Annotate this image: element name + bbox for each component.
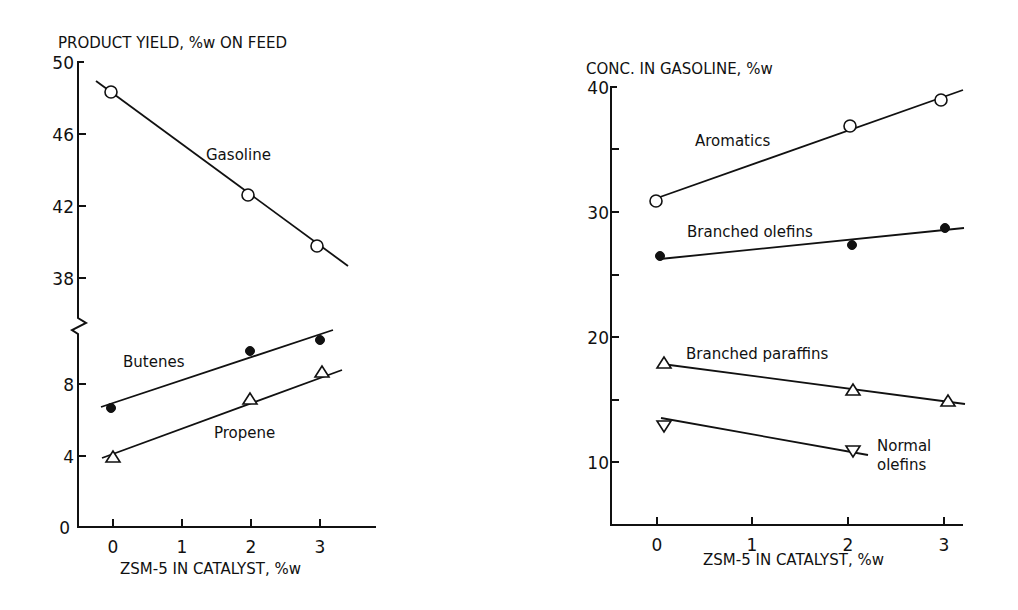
right-x-axis-title: ZSM-5 IN CATALYST, %w <box>703 551 884 569</box>
propene-point <box>243 393 257 404</box>
normal-olefins-label: Normal <box>877 437 931 455</box>
aromatics-label: Aromatics <box>695 132 770 150</box>
branched-olefins-label: Branched olefins <box>687 223 813 241</box>
right-xtick-label: 3 <box>939 535 950 555</box>
right-y-axis-title: CONC. IN GASOLINE, %w <box>586 60 773 78</box>
left-xtick-label: 3 <box>315 537 326 557</box>
normal-olefins-label: olefins <box>877 456 927 474</box>
left-ytick-label: 4 <box>63 447 74 467</box>
propene-fit-line <box>102 370 342 458</box>
butenes-label: Butenes <box>123 353 185 371</box>
propene-point <box>315 366 329 377</box>
gasoline-label: Gasoline <box>206 146 271 164</box>
butenes-point <box>107 404 116 413</box>
right-ytick-label: 30 <box>587 203 609 223</box>
left-ytick-label: 42 <box>52 197 74 217</box>
left-ytick-label: 8 <box>63 375 74 395</box>
gasoline-point <box>311 240 323 252</box>
left-xtick-label: 1 <box>177 537 188 557</box>
figure: PRODUCT YIELD, %w ON FEED 50 46 42 38 8 … <box>0 0 1018 610</box>
gasoline-point <box>105 86 117 98</box>
left-ytick-label: 50 <box>52 53 74 73</box>
gasoline-point <box>242 189 254 201</box>
right-xtick-label: 0 <box>652 535 663 555</box>
right-ytick-label: 10 <box>587 453 609 473</box>
butenes-point <box>316 336 325 345</box>
left-xtick-label: 2 <box>246 537 257 557</box>
aromatics-point <box>935 94 947 106</box>
gasoline-fit-line <box>96 81 348 266</box>
left-ytick-label: 0 <box>59 518 70 538</box>
left-x-axis-title: ZSM-5 IN CATALYST, %w <box>120 560 301 578</box>
branched-paraffins-label: Branched paraffins <box>686 345 829 363</box>
left-chart: PRODUCT YIELD, %w ON FEED 50 46 42 38 8 … <box>52 34 376 578</box>
branched-paraffins-point <box>657 357 671 368</box>
butenes-point <box>246 347 255 356</box>
normal-olefins-point <box>657 421 671 432</box>
branched-olefins-point <box>656 252 665 261</box>
left-ytick-label: 38 <box>52 269 74 289</box>
propene-label: Propene <box>214 424 275 442</box>
branched-olefins-point <box>941 224 950 233</box>
normal-olefins-fit-line <box>661 418 868 455</box>
branched-olefins-point <box>848 241 857 250</box>
right-chart: CONC. IN GASOLINE, %w 40 30 20 10 0 1 2 … <box>586 60 965 569</box>
left-ytick-label: 46 <box>52 125 74 145</box>
left-xtick-label: 0 <box>108 537 119 557</box>
branched-paraffins-fit-line <box>662 364 965 404</box>
right-ytick-label: 40 <box>587 78 609 98</box>
aromatics-point <box>844 120 856 132</box>
left-y-axis-title: PRODUCT YIELD, %w ON FEED <box>58 34 287 52</box>
aromatics-point <box>650 195 662 207</box>
right-ytick-label: 20 <box>587 328 609 348</box>
